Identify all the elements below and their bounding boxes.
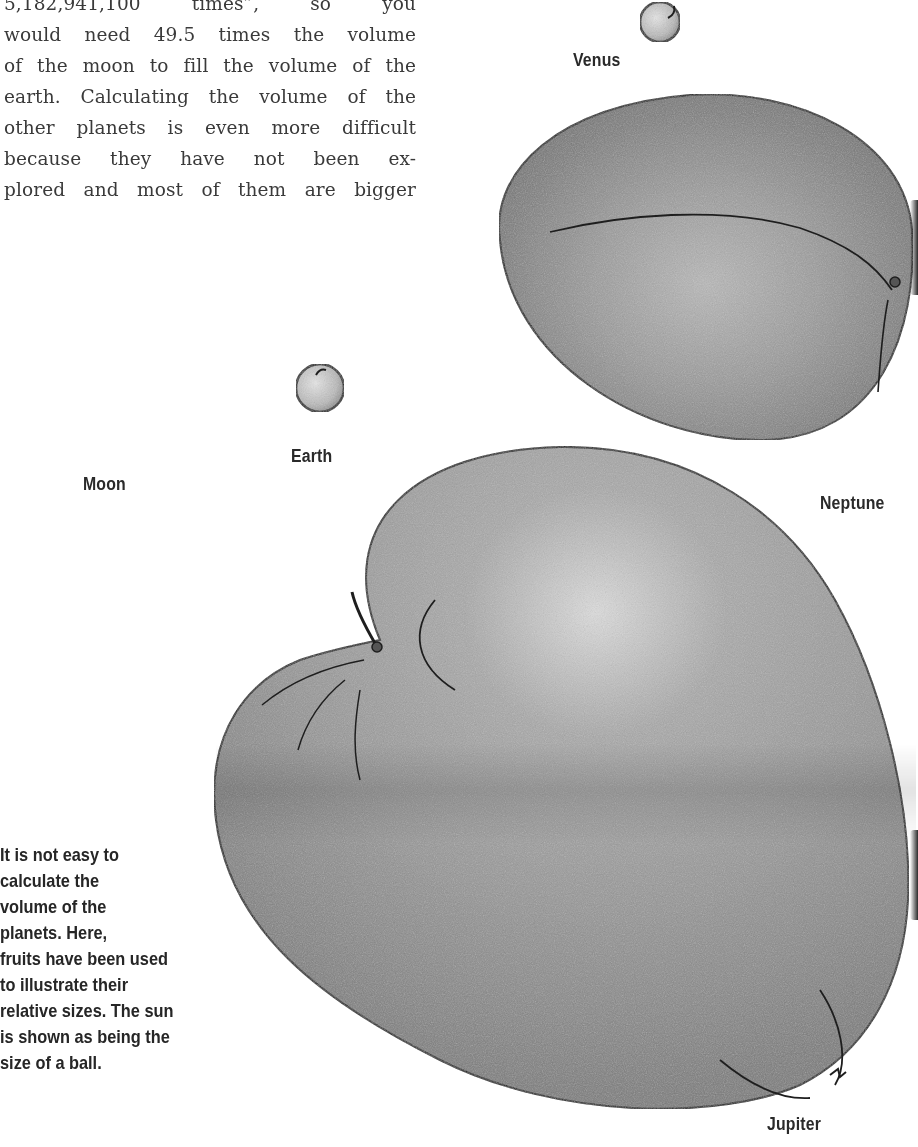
body-line: because they have not been ex- <box>4 143 416 174</box>
caption-line: size of a ball. <box>0 1050 258 1076</box>
label-moon: Moon <box>83 474 126 495</box>
body-paragraph: 5,182,941,100 times”, so you would need … <box>4 0 416 205</box>
gutter-shadow <box>910 200 918 295</box>
label-jupiter: Jupiter <box>767 1114 821 1135</box>
body-line: 5,182,941,100 times”, so you <box>4 0 416 19</box>
body-line: plored and most of them are bigger <box>4 174 416 205</box>
caption-line: is shown as being the <box>0 1024 258 1050</box>
venus-fruit-icon <box>640 2 680 42</box>
label-neptune: Neptune <box>820 493 885 514</box>
caption-line: volume of the <box>0 894 258 920</box>
caption-line: to illustrate their <box>0 972 258 998</box>
caption-line: fruits have been used <box>0 946 258 972</box>
caption-line: planets. Here, <box>0 920 258 946</box>
label-earth: Earth <box>291 446 332 467</box>
caption-line: calculate the <box>0 868 258 894</box>
neptune-fruit-icon <box>499 94 913 440</box>
gutter-shadow <box>910 830 918 920</box>
earth-fruit-icon <box>296 364 344 412</box>
body-line: other planets is even more difficult <box>4 112 416 143</box>
caption-line: relative sizes. The sun <box>0 998 258 1024</box>
body-line: of the moon to fill the volume of the <box>4 50 416 81</box>
jupiter-fruit-icon <box>214 447 916 1109</box>
body-line: would need 49.5 times the volume <box>4 19 416 50</box>
body-line: earth. Calculating the volume of the <box>4 81 416 112</box>
label-venus: Venus <box>573 50 621 71</box>
caption-line: It is not easy to <box>0 842 258 868</box>
figure-caption: It is not easy to calculate the volume o… <box>0 842 258 1076</box>
